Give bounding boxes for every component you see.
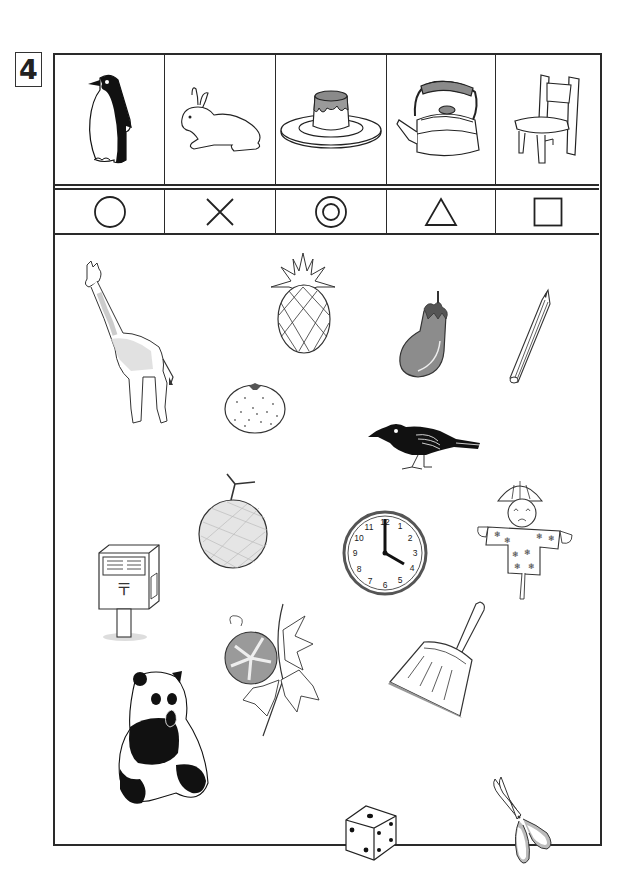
svg-text:5: 5 [398, 575, 403, 585]
cross-symbol-icon [205, 197, 235, 227]
scene-item-scissors [489, 775, 555, 871]
svg-text:6: 6 [383, 580, 388, 590]
scene-item-mandarin-orange [223, 382, 287, 434]
square-symbol-icon [533, 197, 563, 227]
scissors-icon [489, 775, 555, 871]
scene-item-pineapple [269, 251, 339, 355]
key-cell-rabbit [165, 55, 276, 185]
svg-text:❄: ❄ [494, 530, 501, 539]
svg-text:10: 10 [354, 533, 364, 543]
mailbox-icon: 〒 [95, 543, 161, 643]
crow-icon [366, 417, 484, 475]
chair-icon [511, 71, 585, 169]
key-cell-chair [496, 55, 599, 185]
mandarin-orange-icon [223, 382, 287, 434]
svg-text:3: 3 [413, 548, 418, 558]
dustpan-icon [388, 600, 488, 720]
scene-item-dice [344, 804, 398, 862]
clock-icon: 12 1 2 3 4 5 6 7 8 9 10 11 [342, 510, 428, 596]
key-cell-penguin [55, 55, 165, 185]
key-symbol-cell [55, 190, 165, 233]
circle-symbol-icon [93, 195, 127, 229]
eggplant-icon [398, 291, 450, 379]
key-picture-row [55, 55, 599, 185]
worksheet-frame: 12 1 2 3 4 5 6 7 8 9 10 11 [53, 53, 602, 846]
giraffe-icon [81, 259, 181, 431]
scene-item-scarecrow: ❄❄❄❄ ❄❄❄❄ [470, 475, 580, 601]
pudding-icon [279, 88, 383, 152]
svg-text:❄: ❄ [514, 562, 521, 571]
key-symbol-cell [276, 190, 387, 233]
scene-item-morning-glory [223, 600, 323, 736]
svg-text:7: 7 [368, 576, 373, 586]
key-symbol-cell [496, 190, 599, 233]
svg-text:❄: ❄ [548, 534, 555, 543]
kettle-icon [395, 76, 487, 164]
svg-text:❄: ❄ [504, 536, 511, 545]
svg-text:8: 8 [357, 564, 362, 574]
double-circle-symbol-icon [314, 195, 348, 229]
scene-item-giraffe [81, 259, 181, 431]
key-cell-kettle [387, 55, 496, 185]
pineapple-icon [269, 251, 339, 355]
scene-item-clock: 12 1 2 3 4 5 6 7 8 9 10 11 [342, 510, 428, 596]
scene-item-mailbox: 〒 [95, 543, 161, 643]
svg-text:1: 1 [398, 521, 403, 531]
svg-text:2: 2 [408, 533, 413, 543]
svg-text:❄: ❄ [512, 550, 519, 559]
key-symbol-row [55, 190, 599, 235]
scarecrow-icon: ❄❄❄❄ ❄❄❄❄ [470, 475, 580, 601]
question-number: 4 [15, 52, 42, 87]
key-symbol-cell [387, 190, 496, 233]
postal-mark: 〒 [116, 580, 132, 599]
triangle-symbol-icon [424, 197, 458, 227]
dice-icon [344, 804, 398, 862]
svg-text:❄: ❄ [528, 562, 535, 571]
key-cell-pudding [276, 55, 387, 185]
rabbit-icon [174, 85, 266, 155]
melon-icon [197, 472, 271, 572]
key-symbol-cell [165, 190, 276, 233]
scene-item-eggplant [398, 291, 450, 379]
scene-item-crow [366, 417, 484, 475]
scene-item-dustpan [388, 600, 488, 720]
scene-item-pencil [508, 288, 554, 386]
svg-text:❄: ❄ [524, 548, 531, 557]
scene-item-panda [116, 669, 210, 811]
morning-glory-icon [223, 600, 323, 736]
svg-text:11: 11 [365, 522, 374, 532]
svg-text:9: 9 [353, 548, 358, 558]
svg-text:4: 4 [410, 563, 415, 573]
panda-icon [116, 669, 210, 811]
scene-item-melon [197, 472, 271, 572]
symbol-key-table [55, 55, 599, 235]
pencil-icon [508, 288, 554, 386]
svg-text:❄: ❄ [536, 532, 543, 541]
penguin-icon [80, 70, 140, 170]
